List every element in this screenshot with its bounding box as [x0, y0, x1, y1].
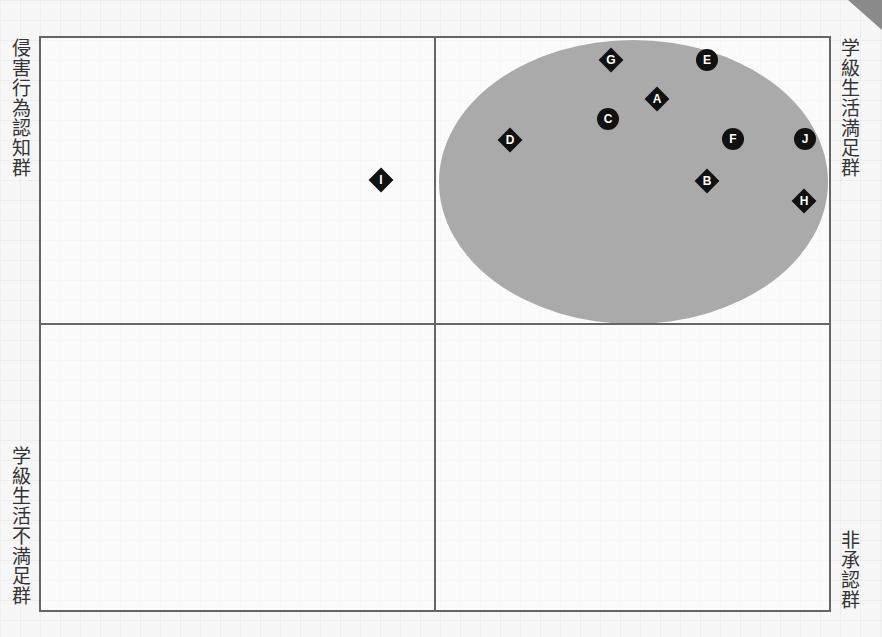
- point-d: D: [499, 129, 521, 151]
- point-label: D: [506, 133, 515, 147]
- label-top-right: 学級生活満足群: [838, 38, 860, 178]
- point-label: I: [379, 173, 382, 187]
- point-j: J: [794, 128, 816, 150]
- point-e: E: [696, 49, 718, 71]
- point-label: C: [604, 112, 613, 126]
- point-label: F: [729, 132, 736, 146]
- point-b: B: [696, 170, 718, 192]
- horizontal-axis-line: [39, 323, 831, 325]
- point-label: J: [802, 132, 809, 146]
- label-bottom-left: 学級生活不満足群: [9, 446, 31, 606]
- point-label: E: [703, 53, 711, 67]
- point-f: F: [722, 128, 744, 150]
- point-h: H: [793, 190, 815, 212]
- satisfaction-highlight-ellipse: [439, 40, 828, 324]
- label-bottom-right: 非承認群: [838, 530, 860, 610]
- page-corner-tab: [848, 0, 882, 30]
- point-label: A: [653, 92, 662, 106]
- label-top-left: 侵害行為認知群: [9, 38, 31, 178]
- point-g: G: [600, 49, 622, 71]
- point-label: G: [606, 53, 615, 67]
- point-c: C: [597, 108, 619, 130]
- point-i: I: [370, 169, 392, 191]
- point-label: H: [800, 194, 809, 208]
- point-a: A: [646, 88, 668, 110]
- point-label: B: [703, 174, 712, 188]
